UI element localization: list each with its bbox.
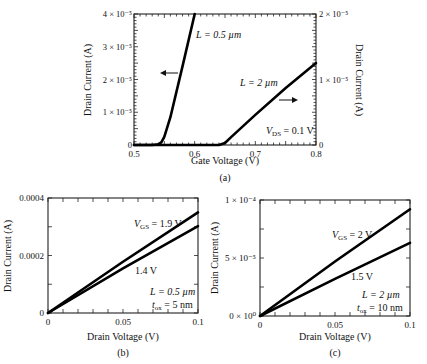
svg-text:0.0004: 0.0004	[19, 193, 44, 203]
svg-text:2 × 10⁻⁵: 2 × 10⁻⁵	[103, 75, 132, 85]
svg-text:5 × 10⁻⁵: 5 × 10⁻⁵	[225, 253, 256, 263]
y-tick-labels-right: 01 × 10⁻⁵2 × 10⁻⁵	[319, 9, 348, 150]
panel-caption: (a)	[219, 172, 230, 184]
svg-text:0.1: 0.1	[404, 320, 415, 330]
y-axis-label-left: Drain Current (A)	[82, 44, 94, 116]
y-tick-labels-left: 01 × 10⁻⁵2 × 10⁻⁵3 × 10⁻⁵4 × 10⁻⁵	[103, 9, 132, 150]
svg-text:0.5: 0.5	[128, 149, 140, 159]
svg-text:1 × 10⁻⁵: 1 × 10⁻⁵	[319, 75, 348, 85]
arrow-right-icon	[279, 97, 298, 103]
svg-text:0.05: 0.05	[327, 320, 343, 330]
svg-text:0.8: 0.8	[310, 149, 322, 159]
svg-text:3 × 10⁻⁵: 3 × 10⁻⁵	[103, 42, 132, 52]
svg-text:4 × 10⁻⁵: 4 × 10⁻⁵	[103, 9, 132, 19]
x-axis-label: Gate Voltage (V)	[191, 155, 259, 167]
panel-c-drain-voltage-chart: 0 × 10⁰5 × 10⁻⁵1 × 10⁻⁴ 00.050.1 VGS = 2…	[209, 195, 416, 359]
y-tick-labels: 00.00020.0004	[19, 193, 44, 318]
panel-b-drain-voltage-chart: 00.00020.0004 00.050.1 VGS = 1.9 V 1.4 V…	[2, 193, 204, 359]
curve-label-1.4V: 1.4 V	[135, 265, 158, 276]
panel-caption: (c)	[329, 347, 340, 359]
curve-label-1.5V: 1.5 V	[351, 271, 374, 282]
y-axis-label-right: Drain Current (A)	[353, 44, 365, 116]
panel-caption: (b)	[117, 347, 129, 359]
curve-label-L-0.5um: L = 0.5 µm	[195, 29, 241, 40]
x-axis-label: Drain Voltage (V)	[299, 331, 371, 343]
curve-label-L-2um: L = 2 µm	[239, 77, 278, 88]
y-axis-label: Drain Current (A)	[2, 220, 14, 292]
curve-L-0.5um	[134, 14, 195, 145]
L-annotation: L = 0.5 µm	[149, 286, 195, 297]
svg-text:1 × 10⁻⁵: 1 × 10⁻⁵	[103, 107, 132, 117]
svg-text:0.1: 0.1	[192, 317, 203, 327]
y-tick-labels: 0 × 10⁰5 × 10⁻⁵1 × 10⁻⁴	[225, 195, 256, 321]
tox-annotation: tox = 5 nm	[152, 299, 193, 312]
svg-text:1 × 10⁻⁴: 1 × 10⁻⁴	[225, 195, 256, 205]
panel-a-gate-voltage-chart: 01 × 10⁻⁵2 × 10⁻⁵3 × 10⁻⁵4 × 10⁻⁵ 01 × 1…	[82, 9, 365, 184]
svg-text:2 × 10⁻⁵: 2 × 10⁻⁵	[319, 9, 348, 19]
x-tick-labels: 00.050.1	[258, 320, 416, 330]
x-tick-labels: 00.050.1	[46, 317, 204, 327]
arrow-left-icon	[160, 70, 178, 76]
figure: 01 × 10⁻⁵2 × 10⁻⁵3 × 10⁻⁵4 × 10⁻⁵ 01 × 1…	[0, 0, 427, 364]
svg-text:0: 0	[40, 308, 45, 318]
svg-text:0.05: 0.05	[115, 317, 131, 327]
y-axis-label: Drain Current (A)	[209, 222, 221, 294]
svg-text:0: 0	[46, 317, 51, 327]
curve-label-vgs-1.9V: VGS = 1.9 V	[134, 218, 183, 231]
svg-text:0.0002: 0.0002	[19, 251, 44, 261]
vds-annotation: VDS = 0.1 V	[266, 125, 315, 138]
x-axis-label: Drain Voltage (V)	[87, 331, 159, 343]
svg-text:0 × 10⁰: 0 × 10⁰	[229, 311, 256, 321]
svg-text:0: 0	[258, 320, 263, 330]
L-annotation: L = 2 µm	[361, 289, 400, 300]
